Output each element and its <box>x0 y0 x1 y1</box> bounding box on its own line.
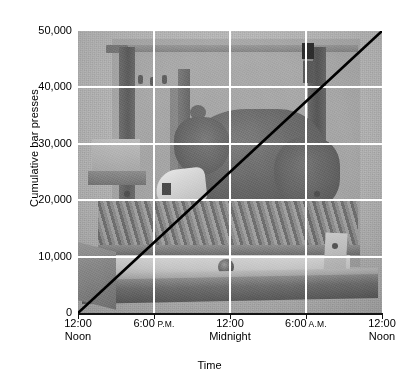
x-tick-label-period: Noon <box>18 330 138 343</box>
x-tick-label-period: Noon <box>322 330 419 343</box>
x-tick-label-time: 12:00 <box>368 317 396 329</box>
x-tick-label-time: 12:00 <box>216 317 244 329</box>
y-tick-label: 30,000 <box>20 138 72 149</box>
y-tick-label: 40,000 <box>20 81 72 92</box>
y-tick-label: 10,000 <box>20 251 72 262</box>
plot-area <box>78 31 382 313</box>
chart-figure: Cumulative bar presses 010,00020,00030,0… <box>0 0 419 385</box>
data-line-series <box>78 31 382 313</box>
x-axis-title: Time <box>0 359 419 371</box>
y-tick-label: 50,000 <box>20 25 72 36</box>
y-tick-label: 20,000 <box>20 194 72 205</box>
x-tick-label-time: 6:00 <box>285 317 306 329</box>
x-tick-label-period: Midnight <box>170 330 290 343</box>
x-tick-label-time: 12:00 <box>64 317 92 329</box>
x-tick-label-time: 6:00 <box>133 317 154 329</box>
x-tick-label: 12:00Noon <box>322 317 419 343</box>
